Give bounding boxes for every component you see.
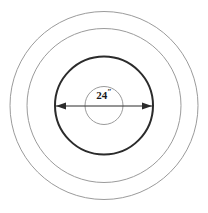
dimension-label-value: 24 — [96, 89, 108, 101]
dimension-arrowhead-left — [56, 102, 66, 109]
dimension-arrowhead-right — [142, 102, 152, 109]
dimension-label-unit: ″ — [107, 88, 111, 97]
diagram-canvas: 24″ — [0, 0, 208, 213]
dimension-label: 24″ — [96, 88, 111, 101]
concentric-circles-figure: 24″ — [0, 0, 208, 213]
